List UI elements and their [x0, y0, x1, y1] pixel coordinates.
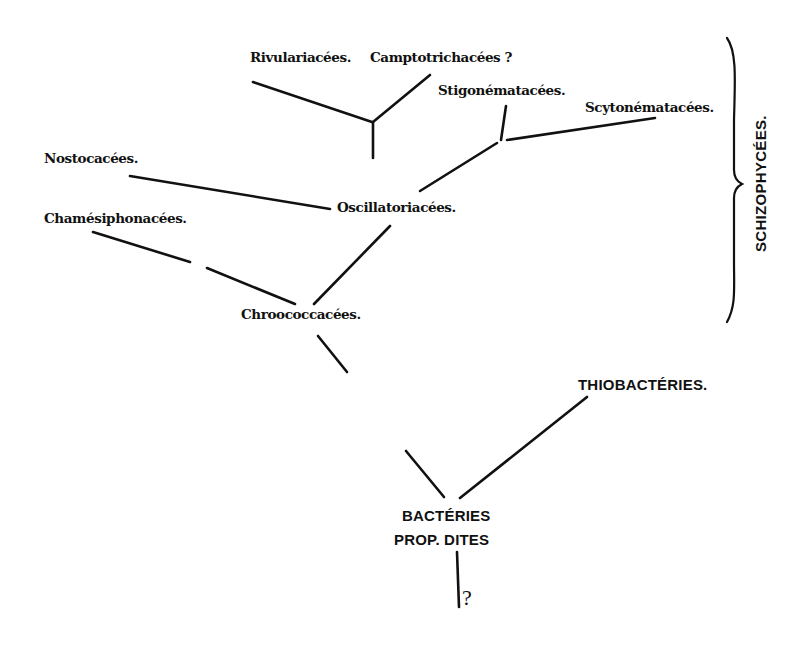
- schizophycees-brace: [727, 38, 742, 322]
- root-question-mark: ?: [462, 587, 472, 609]
- node-chroococcacees: Chroococcacées.: [241, 308, 361, 322]
- node-oscillatoriacees: Oscillatoriacées.: [337, 201, 456, 215]
- node-scytonematacees: Scytonématacées.: [585, 101, 714, 115]
- phylogenetic-diagram: Rivulariacées. Camptotrichacées ? Stigon…: [0, 0, 811, 655]
- edge-nostocacees: [130, 176, 330, 209]
- node-camptotrichacees: Camptotrichacées ?: [370, 51, 512, 65]
- node-nostocacees: Nostocacées.: [44, 152, 138, 166]
- edge-stigonematacees: [501, 106, 506, 140]
- edge-thiobacteries: [460, 397, 587, 498]
- edge-oscillatoriacees-chroococcacees: [314, 226, 390, 304]
- edge-chroococcacees-down: [318, 336, 347, 372]
- node-chamesiphonacees: Chamésiphonacées.: [44, 212, 187, 226]
- edge-camptotrichacees: [373, 75, 430, 122]
- group-label-schizophycees: SCHIZOPHYCÉES.: [752, 115, 769, 252]
- node-bacteries-line1: BACTÉRIES: [402, 508, 490, 523]
- node-rivulariacees: Rivulariacées.: [250, 51, 351, 65]
- node-bacteries-line2: PROP. DITES: [394, 532, 489, 547]
- node-thiobacteries: THIOBACTÉRIES.: [578, 377, 707, 392]
- node-stigonematacees: Stigonématacées.: [438, 84, 565, 98]
- edge-stigonema-stem: [420, 143, 497, 191]
- edge-chamesiphonacees-a: [93, 232, 190, 262]
- edge-rivulariacees: [253, 82, 372, 122]
- edge-root: [457, 552, 459, 607]
- edge-chamesiphonacees-b: [207, 268, 295, 304]
- edge-bacteries-left: [406, 451, 444, 497]
- edge-scytonematacees: [507, 118, 655, 140]
